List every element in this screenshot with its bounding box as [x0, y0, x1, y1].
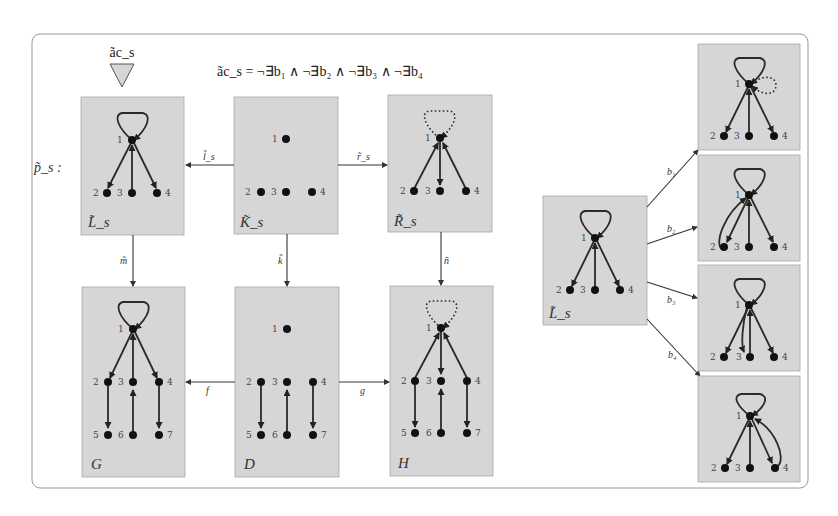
svg-text:2: 2 [246, 377, 252, 387]
svg-text:r̃_s: r̃_s [357, 151, 370, 162]
svg-text:g: g [360, 385, 365, 396]
svg-text:l̃_s: l̃_s [203, 150, 215, 162]
graph-label-Ls-condition: L̃_s [548, 305, 571, 321]
svg-text:1: 1 [118, 324, 124, 334]
svg-text:7: 7 [475, 428, 481, 438]
graph-b4: 1 2 3 4 [698, 376, 800, 482]
svg-text:2: 2 [245, 187, 251, 197]
svg-text:2: 2 [711, 463, 717, 473]
svg-text:4: 4 [320, 187, 326, 197]
svg-text:2: 2 [710, 131, 716, 141]
svg-text:1: 1 [426, 323, 432, 333]
svg-text:3: 3 [425, 186, 431, 196]
dpo-diagram: ãc_s ãc_s = ¬∃b₁ ∧ ¬∃b₂ ∧ ¬∃b₃ ∧ ¬∃b₄ p̃… [0, 0, 838, 516]
svg-text:4: 4 [782, 352, 788, 362]
svg-text:1: 1 [581, 233, 587, 243]
svg-text:5: 5 [401, 428, 407, 438]
svg-text:4: 4 [474, 186, 480, 196]
svg-text:2: 2 [556, 285, 562, 295]
svg-text:1: 1 [736, 411, 742, 421]
graph-label-G: G [91, 456, 102, 472]
svg-text:3: 3 [735, 463, 741, 473]
graph-b2: 1 2 3 4 [698, 155, 800, 261]
svg-text:b₃: b₃ [667, 294, 676, 305]
graph-label-H: H [397, 455, 410, 471]
svg-text:4: 4 [783, 463, 789, 473]
ac-label: ãc_s [110, 45, 135, 60]
svg-text:k̃: k̃ [278, 254, 283, 266]
graph-G: 1 2 3 4 5 6 7 G [82, 287, 185, 477]
svg-text:3: 3 [734, 131, 740, 141]
graph-Ls-condition: 1 2 3 4 L̃_s [543, 196, 647, 325]
svg-text:4: 4 [782, 131, 788, 141]
svg-text:6: 6 [118, 430, 124, 440]
svg-text:7: 7 [321, 430, 327, 440]
svg-text:ñ: ñ [444, 255, 449, 266]
svg-text:2: 2 [400, 186, 406, 196]
svg-text:4: 4 [167, 377, 173, 387]
ac-formula: ãc_s = ¬∃b₁ ∧ ¬∃b₂ ∧ ¬∃b₃ ∧ ¬∃b₄ [217, 64, 423, 79]
svg-text:m̃: m̃ [120, 255, 127, 266]
svg-text:1: 1 [425, 133, 431, 143]
graph-label-Rs: R̃_s [393, 213, 417, 229]
graph-Ls: 1 2 3 4 L̃_s [81, 97, 184, 235]
svg-text:4: 4 [321, 377, 327, 387]
svg-text:4: 4 [165, 188, 171, 198]
svg-text:b₂: b₂ [667, 223, 676, 234]
svg-text:1: 1 [735, 190, 741, 200]
svg-text:6: 6 [272, 430, 278, 440]
svg-text:1: 1 [735, 79, 741, 89]
svg-text:b₁: b₁ [667, 166, 675, 177]
graph-label-D: D [243, 456, 255, 472]
svg-text:1: 1 [272, 324, 278, 334]
graph-label-Ks: K̃_s [239, 214, 264, 230]
graph-b3: 1 2 3 4 [698, 265, 800, 371]
svg-text:2: 2 [401, 376, 407, 386]
svg-text:2: 2 [710, 352, 716, 362]
graph-label-Ls: L̃_s [87, 214, 110, 230]
svg-text:2: 2 [93, 188, 99, 198]
graph-D: 1 2 3 4 5 6 7 D [235, 287, 339, 477]
graph-Ks: 1 2 3 4 K̃_s [234, 97, 338, 234]
svg-text:3: 3 [271, 187, 277, 197]
graph-H: 1 2 3 4 5 6 7 H [390, 286, 493, 476]
svg-text:3: 3 [734, 242, 740, 252]
svg-text:4: 4 [628, 285, 634, 295]
graph-b1: 1 2 3 4 [698, 44, 800, 150]
svg-text:7: 7 [167, 430, 173, 440]
svg-text:3: 3 [736, 352, 742, 362]
svg-text:2: 2 [710, 242, 716, 252]
svg-text:4: 4 [782, 242, 788, 252]
graph-Rs: 1 2 3 4 R̃_s [388, 95, 492, 232]
svg-text:5: 5 [246, 430, 252, 440]
svg-text:6: 6 [426, 428, 432, 438]
svg-text:3: 3 [426, 376, 432, 386]
svg-text:2: 2 [93, 377, 99, 387]
svg-text:3: 3 [118, 377, 124, 387]
svg-text:3: 3 [117, 188, 123, 198]
svg-text:1: 1 [272, 134, 278, 144]
svg-text:3: 3 [272, 377, 278, 387]
rule-label: p̃_s : [33, 160, 62, 175]
svg-text:1: 1 [735, 300, 741, 310]
svg-text:4: 4 [475, 376, 481, 386]
svg-text:3: 3 [580, 285, 586, 295]
svg-text:b₄: b₄ [668, 349, 677, 360]
svg-text:5: 5 [93, 430, 99, 440]
svg-text:1: 1 [117, 135, 123, 145]
